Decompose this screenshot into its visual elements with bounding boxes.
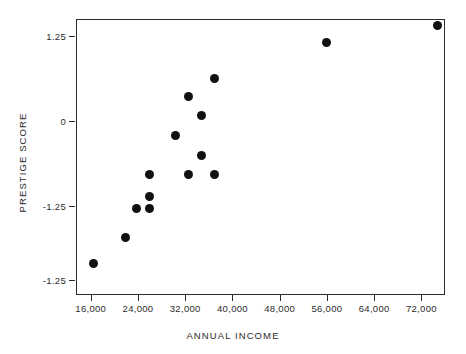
- y-tick-mark: [69, 121, 75, 122]
- x-tick-mark: [327, 295, 328, 301]
- caption-remnant-text: [18, 0, 258, 4]
- data-point: [89, 259, 98, 268]
- y-axis-title: PRESTIGE SCORE: [17, 103, 28, 223]
- data-point: [322, 38, 331, 47]
- data-point: [145, 204, 154, 213]
- plot-area: [76, 19, 445, 295]
- data-point: [184, 92, 193, 101]
- x-tick-label: 40,000: [217, 303, 248, 314]
- y-tick-label: -1.25: [43, 275, 66, 286]
- x-tick-label: 48,000: [264, 303, 295, 314]
- x-axis-title: ANNUAL INCOME: [0, 330, 466, 341]
- y-tick-label: -1.25: [43, 201, 66, 212]
- y-tick-label: 0: [60, 116, 66, 127]
- data-point: [132, 204, 141, 213]
- y-tick-mark: [69, 36, 75, 37]
- x-tick-mark: [91, 295, 92, 301]
- x-tick-label: 64,000: [359, 303, 390, 314]
- x-tick-mark: [232, 295, 233, 301]
- data-point: [197, 111, 206, 120]
- data-point: [171, 131, 180, 140]
- x-tick-mark: [374, 295, 375, 301]
- y-tick-label: 1.25: [46, 31, 66, 42]
- x-tick-label: 32,000: [170, 303, 201, 314]
- y-tick-mark: [69, 206, 75, 207]
- x-tick-label: 16,000: [75, 303, 106, 314]
- x-tick-mark: [138, 295, 139, 301]
- data-point: [121, 233, 130, 242]
- x-tick-label: 56,000: [311, 303, 342, 314]
- y-tick-mark: [69, 280, 75, 281]
- x-tick-mark: [421, 295, 422, 301]
- scatter-plot-figure: 16,00024,00032,00040,00048,00056,00064,0…: [0, 0, 466, 354]
- data-point: [145, 170, 154, 179]
- x-tick-label: 24,000: [123, 303, 154, 314]
- x-tick-label: 72,000: [406, 303, 437, 314]
- x-tick-mark: [185, 295, 186, 301]
- x-tick-mark: [280, 295, 281, 301]
